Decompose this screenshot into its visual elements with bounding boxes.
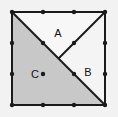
grid-dot <box>10 41 14 45</box>
grid-dot <box>72 41 76 45</box>
figure-canvas: A B C <box>0 0 118 117</box>
region-label-c: C <box>31 68 39 80</box>
grid-dot <box>103 72 107 76</box>
geometry-figure: A B C <box>0 0 118 117</box>
grid-dot <box>72 103 76 107</box>
grid-dot <box>10 10 14 14</box>
grid-dot <box>41 41 45 45</box>
grid-dot <box>103 10 107 14</box>
region-label-a: A <box>54 27 62 39</box>
grid-dot <box>103 103 107 107</box>
grid-dot <box>41 72 45 76</box>
grid-dot <box>103 41 107 45</box>
grid-dot <box>10 72 14 76</box>
grid-dot <box>72 72 76 76</box>
grid-dot <box>41 10 45 14</box>
grid-dot <box>10 103 14 107</box>
grid-dot <box>72 10 76 14</box>
grid-dot <box>41 103 45 107</box>
region-label-b: B <box>84 66 91 78</box>
